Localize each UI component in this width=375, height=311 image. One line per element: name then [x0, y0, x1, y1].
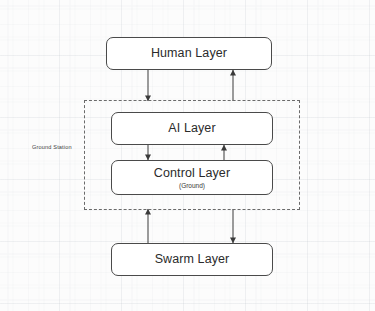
node-human-layer-label: Human Layer — [151, 46, 227, 60]
node-control-layer-label: Control Layer — [154, 166, 230, 180]
node-control-layer-sublabel: (Ground) — [179, 182, 205, 189]
node-swarm-layer-label: Swarm Layer — [155, 252, 230, 266]
node-ai-layer-label: AI Layer — [168, 121, 215, 135]
node-swarm-layer[interactable]: Swarm Layer — [111, 243, 273, 276]
node-ai-layer[interactable]: AI Layer — [111, 112, 273, 145]
node-control-layer[interactable]: Control Layer (Ground) — [111, 160, 273, 195]
node-human-layer[interactable]: Human Layer — [106, 37, 272, 70]
diagram-canvas: Ground Station Human Layer AI Layer Cont… — [0, 0, 375, 311]
group-label-ground-station: Ground Station — [32, 144, 72, 150]
